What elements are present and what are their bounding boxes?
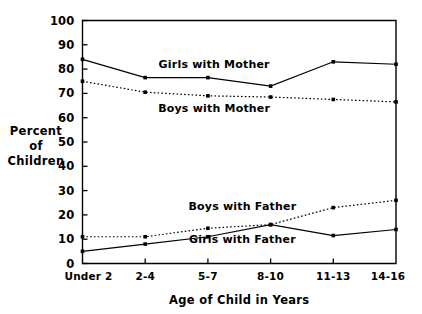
series-line-1	[83, 81, 397, 102]
y-axis-title-line-1: of	[29, 139, 43, 153]
x-tick-label-2: 5-7	[198, 270, 218, 282]
series-lines	[83, 59, 397, 251]
x-axis-ticks	[145, 259, 333, 264]
y-tick-label-20: 20	[58, 208, 74, 222]
data-point-1-5	[394, 100, 398, 104]
y-axis-ticks	[83, 21, 88, 264]
data-point-0-3	[269, 84, 273, 88]
series-annotation-2: Boys with Father	[188, 200, 296, 213]
data-point-1-2	[206, 94, 210, 98]
y-axis-title-line-0: Percent	[10, 124, 63, 138]
data-point-2-1	[143, 235, 147, 239]
data-point-2-5	[394, 199, 398, 203]
y-tick-label-0: 0	[66, 257, 74, 271]
y-tick-label-60: 60	[58, 111, 74, 125]
data-point-3-3	[269, 223, 273, 227]
data-point-0-1	[143, 76, 147, 80]
data-point-2-0	[81, 235, 85, 239]
series-annotation-0: Girls with Mother	[159, 58, 270, 71]
series-annotation-1: Boys with Mother	[158, 102, 270, 115]
data-point-2-4	[332, 206, 336, 210]
chart-container: 0102030405060708090100 Under 22-45-78-10…	[0, 0, 422, 314]
data-point-1-4	[332, 98, 336, 102]
data-point-3-5	[394, 228, 398, 232]
y-tick-label-90: 90	[58, 38, 74, 52]
x-axis-tick-labels: Under 22-45-78-1011-1314-16	[64, 270, 405, 282]
series-annotation-3: Girls with Father	[189, 233, 296, 246]
data-point-1-1	[143, 90, 147, 94]
y-tick-label-70: 70	[58, 86, 74, 100]
y-tick-label-10: 10	[58, 232, 74, 246]
data-point-0-0	[81, 58, 85, 62]
data-point-1-3	[269, 95, 273, 99]
data-point-1-0	[81, 79, 85, 83]
x-tick-label-0: Under 2	[64, 270, 112, 282]
x-axis-title: Age of Child in Years	[169, 293, 309, 307]
x-tick-label-4: 11-13	[316, 270, 351, 282]
y-tick-label-80: 80	[58, 62, 74, 76]
y-tick-label-100: 100	[50, 14, 75, 28]
x-tick-label-5: 14-16	[371, 270, 406, 282]
x-tick-label-3: 8-10	[257, 270, 284, 282]
data-point-3-1	[143, 242, 147, 246]
x-tick-label-1: 2-4	[135, 270, 155, 282]
data-point-3-4	[332, 234, 336, 238]
data-point-0-5	[394, 62, 398, 66]
data-point-2-2	[206, 226, 210, 230]
y-axis-tick-labels: 0102030405060708090100	[50, 14, 75, 271]
data-point-3-0	[81, 250, 85, 254]
line-chart: 0102030405060708090100 Under 22-45-78-10…	[0, 0, 422, 314]
data-point-0-2	[206, 76, 210, 80]
y-tick-label-30: 30	[58, 184, 74, 198]
series-markers	[81, 58, 398, 254]
y-axis-title-line-2: Children	[8, 154, 65, 168]
series-annotations: Girls with MotherBoys with MotherBoys wi…	[158, 58, 297, 246]
data-point-0-4	[332, 60, 336, 64]
